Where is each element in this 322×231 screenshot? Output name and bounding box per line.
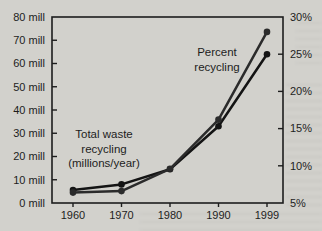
y-left-tick-label: 10 mill: [13, 174, 45, 186]
data-point-marker: [118, 188, 125, 195]
y-left-tick-label: 60 mill: [13, 57, 45, 69]
y-left-tick-label: 40 mill: [13, 104, 45, 116]
y-right-tick-label: 25%: [290, 48, 312, 60]
x-axis: 19601970198019901999: [61, 203, 279, 221]
y-left-tick-label: 20 mill: [13, 150, 45, 162]
x-tick-label: 1980: [158, 209, 182, 221]
y-right-tick-label: 20%: [290, 85, 312, 97]
y-left-axis: 0 mill10 mill20 mill30 mill40 mill50 mil…: [13, 11, 57, 209]
data-point-marker: [215, 123, 222, 130]
data-point-marker: [215, 116, 222, 123]
data-point-marker: [70, 189, 77, 196]
data-point-marker: [264, 51, 271, 58]
data-point-marker: [118, 181, 125, 188]
y-right-tick-label: 15%: [290, 122, 312, 134]
series-annotation: Total wasterecycling(millions/year): [68, 128, 140, 169]
x-tick-label: 1970: [109, 209, 133, 221]
data-point-marker: [264, 29, 271, 36]
series-percent-recycling: [70, 29, 271, 196]
data-point-marker: [167, 165, 174, 172]
x-tick-label: 1990: [206, 209, 230, 221]
series-annotation: Percentrecycling: [194, 46, 239, 73]
recycling-line-chart: 0 mill10 mill20 mill30 mill40 mill50 mil…: [0, 0, 322, 231]
y-right-tick-label: 10%: [290, 160, 312, 172]
y-right-tick-label: 30%: [290, 11, 312, 23]
scanned-textbook-figure: 0 mill10 mill20 mill30 mill40 mill50 mil…: [0, 0, 322, 231]
plot-frame: [52, 17, 283, 203]
y-left-tick-label: 70 mill: [13, 34, 45, 46]
y-right-tick-label: 5%: [290, 197, 306, 209]
y-left-tick-label: 0 mill: [19, 197, 45, 209]
y-left-tick-label: 80 mill: [13, 11, 45, 23]
x-tick-label: 1960: [61, 209, 85, 221]
x-tick-label: 1999: [255, 209, 279, 221]
y-left-tick-label: 30 mill: [13, 127, 45, 139]
y-left-tick-label: 50 mill: [13, 81, 45, 93]
